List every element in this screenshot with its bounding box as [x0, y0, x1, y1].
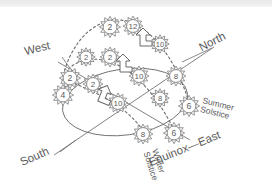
sun-hour-label: 2 — [91, 80, 96, 89]
sun-hour-label: 8 — [158, 94, 162, 103]
sun-symbol: 2 — [83, 74, 103, 94]
sun-hour-label: 2 — [108, 53, 113, 62]
sun-hour-label: 6 — [187, 101, 192, 111]
event-label-summer-solstice: SummerSolstice — [199, 95, 235, 121]
sun-hour-label: 4 — [61, 90, 66, 100]
sun-symbol: 8 — [151, 89, 169, 107]
sun-hour-label: 10 — [114, 99, 123, 108]
sun-symbol: 8 — [133, 124, 153, 144]
sun-hour-label: 10 — [156, 40, 164, 49]
sun-symbol: 10 — [108, 93, 128, 113]
compass-label-south: South — [18, 145, 50, 168]
sun-hour-label: 2 — [68, 73, 73, 83]
sun-hour-label: 10 — [135, 72, 144, 81]
sun-symbol: 2 — [77, 48, 95, 66]
sun-hour-label: 12 — [129, 22, 138, 31]
diagram-canvas: 2121086221086224108WestNorthSouthEquinox… — [0, 0, 272, 196]
solar-path-figure: 2121086221086224108WestNorthSouthEquinox… — [0, 0, 272, 196]
sun-hour-label: 8 — [141, 130, 146, 139]
sun-hour-label: 8 — [174, 72, 179, 81]
sun-symbol: 2 — [100, 47, 120, 67]
sun-symbol: 6 — [163, 122, 184, 143]
south-leader — [60, 140, 76, 152]
sun-hour-label: 2 — [108, 22, 113, 32]
sun-symbol: 6 — [178, 95, 199, 116]
sun-hour-label: 2 — [84, 53, 88, 62]
compass-label-north: North — [197, 30, 228, 53]
sun-hour-label: 6 — [172, 128, 177, 138]
compass-label-west: West — [23, 39, 52, 57]
